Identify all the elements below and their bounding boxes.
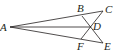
geometry-diagram: A B C D E F (0, 0, 120, 55)
label-b: B (77, 2, 84, 14)
label-d: D (92, 20, 101, 32)
label-f: F (76, 40, 84, 52)
label-a: A (0, 21, 7, 33)
label-c: C (105, 3, 113, 15)
label-e: E (103, 40, 111, 52)
